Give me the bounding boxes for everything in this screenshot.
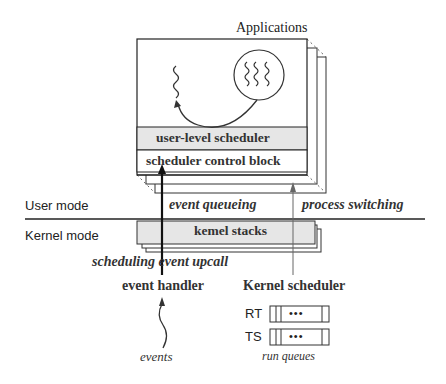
run-queue-rt-ellipsis: •••: [289, 308, 304, 319]
kernel-stacks-label: kemel stacks: [194, 224, 267, 238]
user-mode-label: User mode: [25, 199, 89, 212]
events-squiggle-arrow: [159, 304, 166, 348]
event-handler-label: event handler: [122, 279, 204, 293]
diagram-graphics: [0, 0, 446, 384]
ready-threads-pool-icon: [234, 50, 284, 100]
run-queue-ts-label: TS: [245, 330, 262, 343]
scheduler-architecture-diagram: Applications user-level scheduler schedu…: [0, 0, 446, 384]
user-level-scheduler-label: user-level scheduler: [156, 131, 270, 145]
run-queues-label: run queues: [262, 350, 315, 362]
kernel-scheduler-label: Kernel scheduler: [243, 279, 345, 293]
scheduling-event-upcall-label: scheduling event upcall: [92, 255, 228, 269]
events-label: events: [140, 350, 172, 363]
run-queue-rt-label: RT: [245, 307, 262, 320]
kernel-mode-label: Kernel mode: [25, 229, 99, 242]
applications-label: Applications: [236, 21, 308, 35]
process-switching-label: process switching: [302, 198, 404, 212]
scheduler-control-block-label: scheduler control block: [146, 154, 281, 168]
run-queue-ts-ellipsis: •••: [289, 331, 304, 342]
event-queueing-label: event queueing: [169, 198, 257, 212]
